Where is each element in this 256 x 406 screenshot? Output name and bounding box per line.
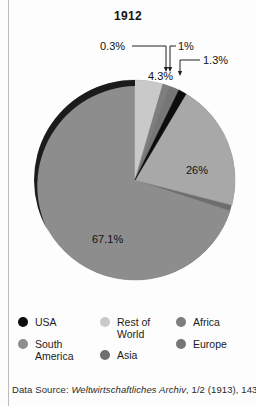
legend-label-africa: Africa	[193, 316, 220, 328]
legend-item-africa[interactable]: Africa	[176, 316, 252, 329]
leader-africa	[170, 46, 176, 70]
chart-title: 1912	[0, 9, 256, 23]
legend-item-europe[interactable]: Europe	[176, 338, 252, 351]
legend-swatch-south-america	[18, 339, 28, 349]
arrow-europe	[178, 71, 182, 76]
legend-item-south-america[interactable]: South America	[18, 338, 94, 362]
data-source-note: Data Source: Weltwirtschaftliches Archiv…	[12, 384, 256, 395]
pie-chart-svg: 4.3% 26% 67.1% 0.3% 1% 1.3%	[0, 26, 256, 296]
legend-swatch-africa	[176, 317, 186, 327]
pie-slices	[34, 80, 235, 280]
label-south-america: 67.1%	[92, 233, 123, 245]
pie-chart-area: 4.3% 26% 67.1% 0.3% 1% 1.3%	[0, 26, 256, 296]
legend-swatch-europe	[176, 339, 186, 349]
leader-europe	[180, 60, 200, 74]
legend-column-2: Rest of World Asia	[100, 316, 176, 371]
legend-label-rest-of-world: Rest of World	[117, 316, 150, 340]
chart-page: 1912	[0, 0, 256, 406]
label-asia: 26%	[186, 164, 208, 176]
legend-item-usa[interactable]: USA	[18, 316, 94, 329]
label-rest-of-world: 4.3%	[148, 70, 173, 82]
legend-column-3: Africa Europe	[176, 316, 252, 360]
callout-usa: 0.3%	[100, 40, 125, 52]
legend-label-south-america: South America	[35, 338, 74, 362]
source-suffix: , 1/2 (1913), 143.	[186, 384, 256, 395]
legend-item-rest-of-world[interactable]: Rest of World	[100, 316, 176, 340]
callout-europe: 1.3%	[203, 54, 228, 66]
source-work-title: Weltwirtschaftliches Archiv	[71, 384, 186, 395]
chart-legend: USA South America Rest of World Asia Afr…	[18, 316, 250, 372]
legend-label-usa: USA	[35, 316, 57, 328]
legend-swatch-rest-of-world	[100, 317, 110, 327]
legend-item-asia[interactable]: Asia	[100, 349, 176, 362]
leader-usa	[132, 46, 166, 70]
legend-swatch-asia	[100, 350, 110, 360]
legend-swatch-usa	[18, 317, 28, 327]
source-prefix: Data Source:	[12, 384, 71, 395]
callout-africa: 1%	[178, 40, 194, 52]
legend-label-asia: Asia	[117, 349, 137, 361]
legend-label-europe: Europe	[193, 338, 227, 350]
legend-column-1: USA South America	[18, 316, 94, 371]
